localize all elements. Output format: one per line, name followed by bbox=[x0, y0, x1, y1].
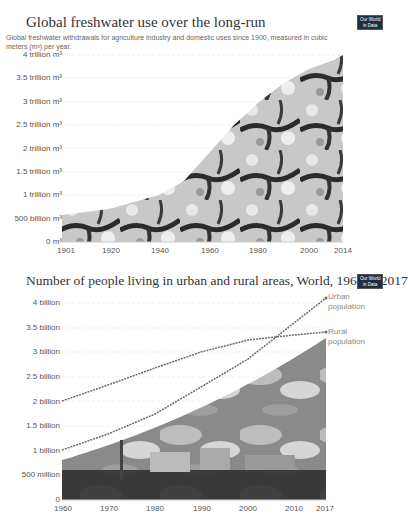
rural-population-label: Rural population bbox=[328, 327, 365, 347]
x-tick: 2000 bbox=[239, 504, 257, 513]
label-line: population bbox=[328, 337, 365, 347]
x-tick: 1980 bbox=[146, 504, 164, 513]
x-tick: 2010 bbox=[285, 504, 303, 513]
label-line: Urban bbox=[328, 292, 365, 302]
label-line: Rural bbox=[328, 327, 365, 337]
x-tick: 1990 bbox=[193, 504, 211, 513]
label-line: population bbox=[328, 302, 365, 312]
urban-population-label: Urban population bbox=[328, 292, 365, 312]
x-tick: 1970 bbox=[100, 504, 118, 513]
x-tick: 2017 bbox=[316, 504, 334, 513]
x-tick: 1960 bbox=[54, 504, 72, 513]
